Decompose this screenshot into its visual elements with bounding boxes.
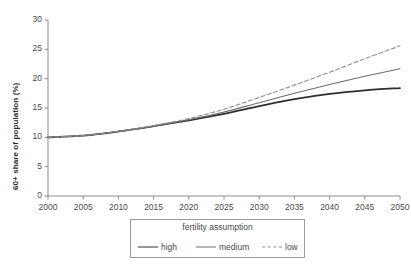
legend-swatch-high-icon — [138, 244, 158, 251]
y-tick-label: 10 — [12, 131, 42, 141]
series-line-medium — [48, 69, 400, 138]
x-tick-label: 2050 — [380, 202, 411, 212]
y-tick-label: 5 — [12, 161, 42, 171]
y-tick-label: 15 — [12, 102, 42, 112]
legend-label: high — [161, 242, 177, 252]
y-tick-label: 25 — [12, 43, 42, 53]
legend-label: medium — [219, 242, 249, 252]
chart-figure: 60+ share of population (%) 051015202530… — [0, 0, 411, 269]
x-tick-label: 2020 — [169, 202, 209, 212]
legend-title: fertility assumption — [130, 222, 305, 232]
y-tick-label: 0 — [12, 190, 42, 200]
legend-swatch-low-icon — [262, 244, 282, 251]
legend-entry-high[interactable]: high — [138, 241, 177, 253]
x-tick-label: 2025 — [204, 202, 244, 212]
x-tick-label: 2015 — [134, 202, 174, 212]
x-tick-label: 2005 — [63, 202, 103, 212]
x-tick-label: 2035 — [274, 202, 314, 212]
legend-entry-medium[interactable]: medium — [196, 241, 249, 253]
x-tick-label: 2040 — [310, 202, 350, 212]
legend-entry-low[interactable]: low — [262, 241, 298, 253]
y-tick-label: 20 — [12, 73, 42, 83]
x-tick-label: 2045 — [345, 202, 385, 212]
x-tick-label: 2000 — [28, 202, 68, 212]
x-tick-label: 2030 — [239, 202, 279, 212]
series-line-high — [48, 88, 400, 137]
y-tick-label: 30 — [12, 14, 42, 24]
x-tick-label: 2010 — [98, 202, 138, 212]
legend-label: low — [285, 242, 298, 252]
legend-swatch-medium-icon — [196, 244, 216, 251]
